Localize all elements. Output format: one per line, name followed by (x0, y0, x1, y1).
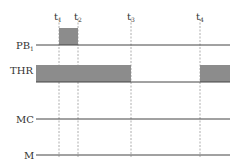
t2-label: t2 (74, 11, 82, 23)
thr-pulse-1 (36, 65, 131, 82)
mc-label: MC (16, 114, 34, 125)
pb1-label: PB1 (16, 40, 34, 52)
thr-pulse-2 (200, 65, 230, 82)
m-label: M (24, 150, 34, 161)
thr-label: THR (10, 65, 33, 76)
t1-label: t1 (54, 11, 62, 23)
pb1-pulse (59, 28, 78, 45)
t3-label: t3 (127, 11, 135, 23)
time-marker-lines (59, 19, 200, 157)
t4-label: t4 (196, 11, 204, 23)
timing-diagram: t1 t2 t3 t4 PB1 THR MC M (0, 0, 242, 165)
